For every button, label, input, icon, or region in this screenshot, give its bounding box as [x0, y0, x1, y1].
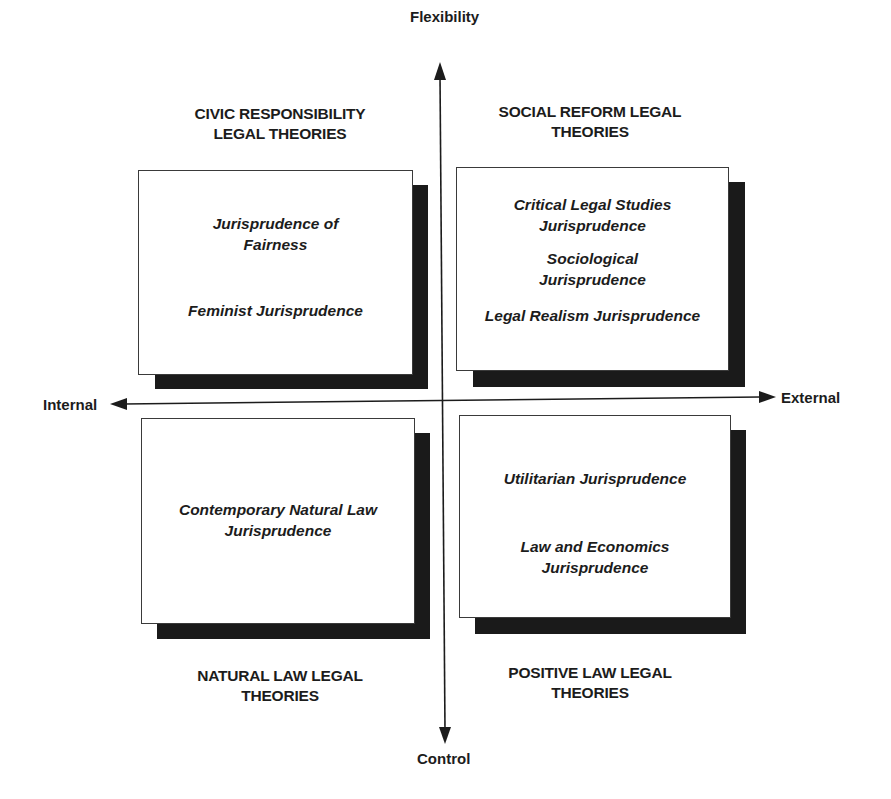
item-line: Critical Legal Studies: [457, 194, 728, 215]
title-line: THEORIES: [160, 686, 400, 706]
arrow-right-icon: [759, 391, 776, 403]
arrow-left-icon: [110, 398, 127, 410]
theory-feminist-jurisprudence: Feminist Jurisprudence: [139, 300, 412, 321]
theory-legal-realism-jurisprudence: Legal Realism Jurisprudence: [457, 305, 728, 326]
item-line: Contemporary Natural Law: [142, 499, 414, 520]
quadrant-title-natural-law: NATURAL LAW LEGAL THEORIES: [160, 666, 400, 706]
title-line: LEGAL THEORIES: [160, 124, 400, 144]
item-line: Sociological: [457, 248, 728, 269]
horizontal-axis-line: [124, 397, 760, 404]
item-line: Law and Economics: [460, 536, 730, 557]
item-line: Legal Realism Jurisprudence: [457, 305, 728, 326]
title-line: THEORIES: [470, 122, 710, 142]
quadrant-box-natural-law: Contemporary Natural Law Jurisprudence: [141, 418, 415, 624]
title-line: POSITIVE LAW LEGAL: [470, 663, 710, 683]
axis-label-flexibility: Flexibility: [410, 8, 479, 25]
arrow-up-icon: [434, 62, 446, 80]
theory-sociological-jurisprudence: Sociological Jurisprudence: [457, 248, 728, 290]
item-line: Feminist Jurisprudence: [139, 300, 412, 321]
title-line: SOCIAL REFORM LEGAL: [470, 102, 710, 122]
arrow-down-icon: [439, 727, 451, 744]
item-line: Jurisprudence: [457, 215, 728, 236]
title-line: THEORIES: [470, 683, 710, 703]
theory-critical-legal-studies: Critical Legal Studies Jurisprudence: [457, 194, 728, 236]
axis-label-internal: Internal: [43, 396, 97, 413]
item-line: Utilitarian Jurisprudence: [460, 468, 730, 489]
axis-label-control: Control: [417, 750, 470, 767]
theory-law-and-economics: Law and Economics Jurisprudence: [460, 536, 730, 578]
theory-jurisprudence-of-fairness: Jurisprudence of Fairness: [139, 213, 412, 255]
item-line: Fairness: [139, 234, 412, 255]
quadrant-title-social-reform: SOCIAL REFORM LEGAL THEORIES: [470, 102, 710, 142]
title-line: NATURAL LAW LEGAL: [160, 666, 400, 686]
item-line: Jurisprudence: [142, 520, 414, 541]
quadrant-box-positive-law: Utilitarian Jurisprudence Law and Econom…: [459, 415, 731, 618]
title-line: CIVIC RESPONSIBILITY: [160, 104, 400, 124]
quadrant-axes: [0, 0, 891, 799]
theory-contemporary-natural-law: Contemporary Natural Law Jurisprudence: [142, 499, 414, 541]
quadrant-box-civic-responsibility: Jurisprudence of Fairness Feminist Juris…: [138, 170, 413, 375]
item-line: Jurisprudence of: [139, 213, 412, 234]
quadrant-title-civic-responsibility: CIVIC RESPONSIBILITY LEGAL THEORIES: [160, 104, 400, 144]
item-line: Jurisprudence: [460, 557, 730, 578]
item-line: Jurisprudence: [457, 269, 728, 290]
quadrant-title-positive-law: POSITIVE LAW LEGAL THEORIES: [470, 663, 710, 703]
axis-label-external: External: [781, 389, 840, 406]
quadrant-box-social-reform: Critical Legal Studies Jurisprudence Soc…: [456, 167, 729, 371]
vertical-axis-line: [440, 76, 445, 730]
theory-utilitarian-jurisprudence: Utilitarian Jurisprudence: [460, 468, 730, 489]
